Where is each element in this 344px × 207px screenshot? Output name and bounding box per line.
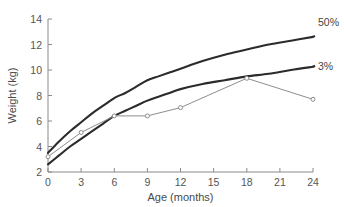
data-point-marker xyxy=(179,106,183,110)
series-label-50pct: 50% xyxy=(318,16,339,28)
chart-canvas: 2 4 6 8 10 12 14 0 3 6 9 12 15 18 21 24 … xyxy=(0,0,344,207)
x-tick-label: 18 xyxy=(241,176,253,188)
x-tick-label: 15 xyxy=(208,176,220,188)
x-tick-label: 0 xyxy=(45,176,51,188)
series-label-3pct: 3% xyxy=(318,60,333,72)
data-point-marker xyxy=(311,97,315,101)
y-tick-label: 6 xyxy=(36,115,42,127)
series-leader-50% xyxy=(313,36,315,37)
series-leader-3% xyxy=(313,66,315,67)
growth-chart: 2 4 6 8 10 12 14 0 3 6 9 12 15 18 21 24 … xyxy=(0,0,344,207)
x-tick-label: 12 xyxy=(175,176,187,188)
x-tick-label: 3 xyxy=(78,176,84,188)
data-point-marker xyxy=(79,130,83,134)
data-point-marker xyxy=(245,76,249,80)
axes-group xyxy=(48,19,313,172)
x-tick-label: 6 xyxy=(111,176,117,188)
data-point-marker xyxy=(145,114,149,118)
y-tick-label: 2 xyxy=(36,166,42,178)
x-axis-title: Age (months) xyxy=(147,191,213,203)
y-tick-label: 8 xyxy=(36,90,42,102)
x-tick-marks xyxy=(48,168,313,172)
data-point-marker xyxy=(46,155,50,159)
y-tick-label: 4 xyxy=(36,141,42,153)
x-tick-labels: 0 3 6 9 12 15 18 21 24 xyxy=(45,176,319,188)
y-tick-label: 10 xyxy=(30,64,42,76)
data-point-marker xyxy=(112,114,116,118)
y-axis-title: Weight (kg) xyxy=(6,67,18,123)
x-tick-label: 9 xyxy=(144,176,150,188)
y-tick-label: 12 xyxy=(30,39,42,51)
y-tick-labels: 2 4 6 8 10 12 14 xyxy=(30,13,42,178)
x-tick-label: 24 xyxy=(307,176,319,188)
x-tick-label: 21 xyxy=(274,176,286,188)
y-tick-label: 14 xyxy=(30,13,42,25)
series-layer xyxy=(46,36,315,165)
